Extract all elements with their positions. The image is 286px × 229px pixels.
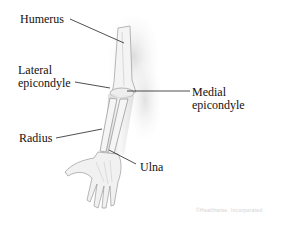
label-radius: Radius (19, 132, 52, 145)
arm-illustration (0, 0, 286, 229)
leader-lateral-epicondyle (75, 82, 110, 88)
anatomy-diagram: Humerus Lateral epicondyle Medial epicon… (0, 0, 286, 229)
leader-radius (56, 129, 102, 138)
label-medial-epicondyle: Medial epicondyle (192, 86, 245, 112)
label-humerus: Humerus (20, 13, 64, 26)
watermark: ©Healthwise, Incorporated (196, 207, 263, 213)
label-ulna: Ulna (140, 161, 163, 174)
hand (65, 152, 121, 208)
label-lateral-epicondyle: Lateral epicondyle (18, 64, 71, 90)
